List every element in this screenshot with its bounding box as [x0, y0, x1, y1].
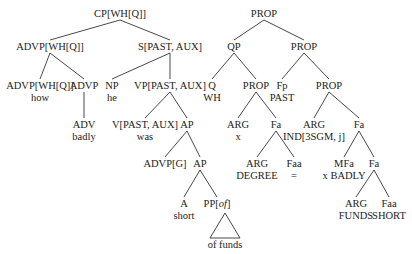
node-word-arg1: x	[235, 131, 241, 142]
node-label-ap2: AP	[193, 158, 207, 169]
node-word-faa2: SHORT	[372, 210, 406, 221]
node-label-fa1: Fa	[271, 119, 282, 130]
node-label-cp: CP[WH[Q]]	[94, 8, 146, 19]
node-word-mfa: x BADLY	[323, 170, 366, 181]
node-label-v: V[PAST, AUX]	[112, 119, 178, 130]
edge-fa2-fa3	[359, 131, 374, 157]
edge-qp-prop2	[234, 53, 256, 79]
node-label-advp1: ADVP[WH[Q]]	[16, 41, 84, 52]
edge-advp1-advp3	[50, 53, 84, 79]
edge-cp-advp1	[50, 20, 120, 40]
node-label-a: A	[180, 198, 188, 209]
edge-fa1-arg3	[257, 131, 276, 157]
node-word-a: short	[174, 210, 195, 221]
node-label-prop1: PROP	[291, 41, 317, 52]
node-word-arg3: DEGREE	[236, 170, 277, 181]
node-label-fa2: Fa	[354, 119, 365, 130]
edge-fa3-faa2	[374, 170, 389, 197]
node-label-s: S[PAST, AUX]	[138, 41, 202, 52]
node-word-v: was	[137, 131, 153, 142]
node-label-np: NP	[105, 80, 119, 91]
edge-ap1-advpg	[165, 131, 187, 157]
node-word-fp: PAST	[270, 92, 295, 103]
edge-ap1-ap2	[187, 131, 200, 157]
node-word-faa1: =	[291, 170, 297, 181]
edge-ap2-pp	[200, 170, 217, 197]
node-label-prop3: PROP	[316, 80, 342, 91]
edge-cp-s	[120, 20, 170, 40]
edge-advp1-advp2	[40, 53, 50, 79]
node-label-advpg: ADVP[G]	[143, 158, 186, 169]
edge-qp-q	[212, 53, 234, 79]
node-label-prop0: PROP	[251, 8, 277, 19]
node-label-mfa: MFa	[334, 158, 354, 169]
node-word-q: WH	[203, 92, 221, 103]
edge-ap2-a	[184, 170, 200, 197]
node-label-arg3: ARG	[246, 158, 269, 169]
node-label-arg4: ARG	[345, 198, 368, 209]
node-label-arg2: ARG	[303, 119, 326, 130]
edge-prop3-fa2	[329, 92, 359, 118]
edge-prop3-arg2	[314, 92, 329, 118]
edge-prop1-prop3	[304, 53, 329, 79]
edge-prop2-arg1	[238, 92, 256, 118]
node-word-np: he	[107, 92, 117, 103]
node-label-pp: PP[of]	[204, 198, 231, 209]
node-label-faa1: Faa	[286, 158, 302, 169]
node-label-faa2: Faa	[381, 198, 397, 209]
node-label-advp2: ADVP[WH[Q]]	[6, 80, 74, 91]
node-word-arg2: IND[3SGM, j]	[283, 131, 345, 142]
edge-prop0-prop1	[264, 20, 304, 40]
node-label-advp3: ADVP	[70, 80, 99, 91]
node-label-qp: QP	[227, 41, 241, 52]
triangle-pp	[210, 213, 240, 238]
node-label-fa3: Fa	[369, 158, 380, 169]
node-label-fp: Fp	[276, 80, 287, 91]
node-label-vp: VP[PAST, AUX]	[134, 80, 206, 91]
edge-prop1-fp	[282, 53, 304, 79]
node-word-advp2: how	[31, 92, 50, 103]
node-word-adv: badly	[72, 131, 96, 142]
node-label-ap1: AP	[180, 119, 194, 130]
node-word-pp: of funds	[208, 239, 243, 250]
edge-s-np	[112, 53, 170, 79]
edge-vp-ap1	[170, 92, 187, 118]
tree-labels: CP[WH[Q]]ADVP[WH[Q]]S[PAST, AUX]ADVP[WH[…	[6, 8, 406, 250]
node-label-arg1: ARG	[227, 119, 250, 130]
node-label-adv: ADV	[73, 119, 96, 130]
node-label-q: Q	[208, 80, 216, 91]
edge-prop0-qp	[234, 20, 264, 40]
edge-fa2-mfa	[344, 131, 359, 157]
edge-vp-v	[145, 92, 170, 118]
node-label-prop2: PROP	[243, 80, 269, 91]
node-word-arg4: FUNDS	[339, 210, 374, 221]
tree-diagram: CP[WH[Q]]ADVP[WH[Q]]S[PAST, AUX]ADVP[WH[…	[0, 0, 412, 254]
